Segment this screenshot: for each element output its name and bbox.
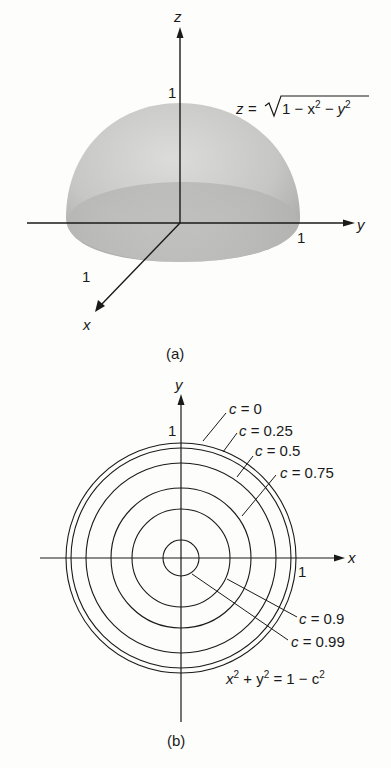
caption-a: (a) xyxy=(166,345,184,362)
y-axis-arrow-icon xyxy=(343,220,355,227)
leader-c09 xyxy=(227,579,297,617)
label-c05: c = 0.5 xyxy=(255,442,300,459)
x-tick-b: 1 xyxy=(298,563,306,580)
y-axis-b-label: y xyxy=(174,376,184,393)
leader-c0 xyxy=(203,413,226,441)
y-tick-1: 1 xyxy=(297,229,305,246)
label-c099: c = 0.99 xyxy=(291,633,345,650)
x-axis-b-label: x xyxy=(347,549,356,566)
hemisphere-equation: z = 1 − x2 − y2 xyxy=(235,96,369,117)
y-tick-b: 1 xyxy=(168,422,176,439)
label-c09: c = 0.9 xyxy=(299,610,344,627)
leader-c099 xyxy=(192,574,288,640)
x-axis-b-arrow-icon xyxy=(334,555,345,562)
panel-a: z y x 1 1 1 z = 1 − x2 − y2 (a) xyxy=(27,8,369,362)
leader-c025 xyxy=(223,433,237,452)
z-axis-arrow-icon xyxy=(177,27,184,38)
caption-b: (b) xyxy=(167,732,185,749)
label-c075: c = 0.75 xyxy=(280,464,334,481)
svg-text:z =: z = xyxy=(235,100,257,117)
label-c0: c = 0 xyxy=(229,400,262,417)
hemisphere-rim-shade xyxy=(67,182,299,262)
x-axis-label: x xyxy=(82,316,91,333)
y-axis-b-arrow-icon xyxy=(178,394,185,405)
level-curve-equation: x2 + y2 = 1 − c2 xyxy=(225,669,325,687)
y-axis-label: y xyxy=(356,216,366,233)
z-tick-1: 1 xyxy=(168,84,176,101)
x-tick-1: 1 xyxy=(82,268,90,285)
panel-b: y x 1 1 c = 0 c = 0.25 c = 0.5 c = 0.75 … xyxy=(40,376,356,749)
z-axis-label: z xyxy=(173,8,182,25)
figure: z y x 1 1 1 z = 1 − x2 − y2 (a) y x 1 1 xyxy=(0,0,391,768)
label-c025: c = 0.25 xyxy=(239,422,293,439)
svg-text:1 − x2 − y2: 1 − x2 − y2 xyxy=(282,99,351,117)
